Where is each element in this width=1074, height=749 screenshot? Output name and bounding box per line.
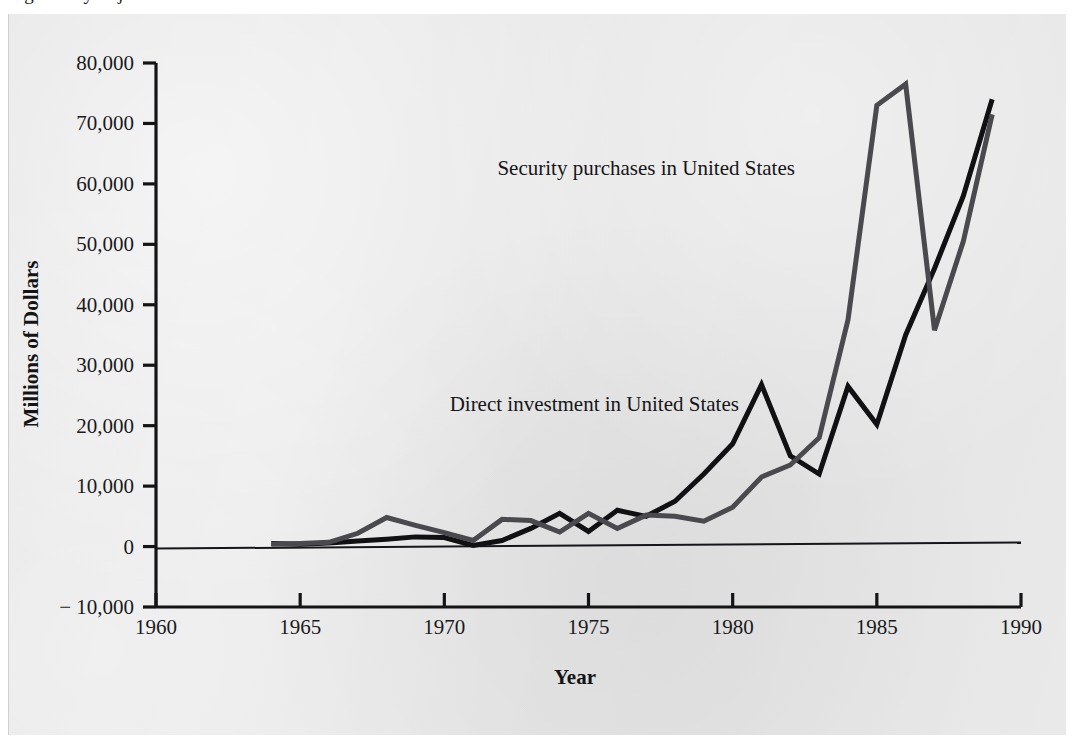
y-axis: − 10,000010,00020,00030,00040,00050,0006… <box>59 51 156 619</box>
data-series-line <box>271 84 992 544</box>
x-axis-tick-label: 1965 <box>279 615 321 639</box>
y-axis-tick-label: 20,000 <box>76 414 134 438</box>
y-axis-tick-label: 80,000 <box>76 51 134 75</box>
y-axis-title: Millions of Dollars <box>19 261 43 428</box>
x-axis-tick-label: 1990 <box>1000 615 1042 639</box>
x-axis: 1960196519701975198019851990 <box>135 593 1042 639</box>
x-axis-tick-label: 1960 <box>135 615 177 639</box>
y-axis-tick-label: 50,000 <box>76 232 134 256</box>
y-axis-tick-label: 10,000 <box>76 474 134 498</box>
x-axis-tick-label: 1985 <box>856 615 898 639</box>
series-annotation-label: Direct investment in United States <box>450 392 739 416</box>
x-axis-tick-label: 1980 <box>712 615 754 639</box>
y-axis-tick-label: 0 <box>124 535 135 559</box>
figure-container: Figure ... y ... j ... − 10,000010,00020… <box>0 0 1074 749</box>
series-annotations-group: Direct investment in United StatesSecuri… <box>450 156 795 416</box>
x-axis-tick-label: 1975 <box>568 615 610 639</box>
y-axis-tick-label: 40,000 <box>76 293 134 317</box>
line-chart: − 10,000010,00020,00030,00040,00050,0006… <box>9 14 1067 735</box>
chart-plate: − 10,000010,00020,00030,00040,00050,0006… <box>8 14 1066 735</box>
y-axis-tick-label: 60,000 <box>76 172 134 196</box>
figure-caption-strip: Figure ... y ... j ... <box>0 0 1074 14</box>
x-axis-tick-label: 1970 <box>423 615 465 639</box>
data-series-group <box>271 84 992 545</box>
series-annotation-label: Security purchases in United States <box>497 156 794 180</box>
figure-caption-text: Figure ... y ... j ... <box>8 0 143 5</box>
y-axis-tick-label: − 10,000 <box>59 595 134 619</box>
y-axis-tick-label: 70,000 <box>76 111 134 135</box>
y-axis-tick-label: 30,000 <box>76 353 134 377</box>
x-axis-title: Year <box>554 665 596 689</box>
